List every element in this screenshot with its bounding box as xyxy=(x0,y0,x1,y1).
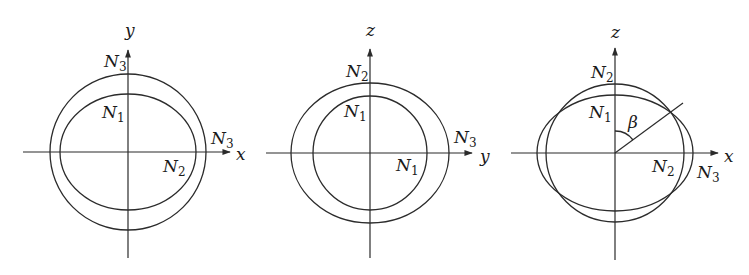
panel-xz-plane: z x N2 N1 β N2 N3 xyxy=(511,22,734,260)
y-axis-label: y xyxy=(479,146,490,166)
label-right-outer: N3 xyxy=(210,128,234,151)
label-inner-top: N1 xyxy=(588,102,612,125)
label-top: N3 xyxy=(103,51,127,74)
index-ellipsoid-sections-figure: y x N3 N1 N3 N2 z y N2 N1 N3 N1 z x N2 N… xyxy=(0,0,749,275)
z-axis-label: z xyxy=(610,22,621,42)
label-right-inner: N2 xyxy=(651,156,675,179)
x-axis-label: x xyxy=(724,146,734,166)
beta-angle-arc xyxy=(615,131,633,140)
z-axis-label: z xyxy=(365,20,376,40)
label-right-inner: N2 xyxy=(162,156,186,179)
label-inner-top: N1 xyxy=(343,101,367,124)
label-right-outer: N3 xyxy=(453,127,477,150)
x-axis-label: x xyxy=(236,144,246,164)
label-right-outer: N3 xyxy=(696,162,720,185)
beta-ray xyxy=(615,103,683,153)
label-right-inner: N1 xyxy=(395,155,419,178)
panel-yz-plane: z y N2 N1 N3 N1 xyxy=(266,20,490,258)
label-top: N2 xyxy=(345,61,369,84)
label-inner-top: N1 xyxy=(101,102,125,125)
label-angle-beta: β xyxy=(627,112,638,132)
panel-xy-plane: y x N3 N1 N3 N2 xyxy=(23,20,246,258)
label-top: N2 xyxy=(590,62,614,85)
y-axis-label: y xyxy=(124,20,135,40)
